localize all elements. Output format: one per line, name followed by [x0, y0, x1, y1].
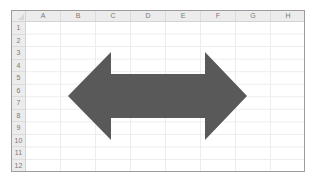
- row-header-7[interactable]: 7: [12, 97, 25, 110]
- row-header-2[interactable]: 2: [12, 35, 25, 48]
- row-header-11[interactable]: 11: [12, 147, 25, 160]
- row-header-5[interactable]: 5: [12, 72, 25, 85]
- column-headers: A B C D E F G H: [26, 11, 304, 22]
- row-headers: 1 2 3 4 5 6 7 8 9 10 11 12: [12, 22, 26, 171]
- column-header-c[interactable]: C: [96, 11, 131, 21]
- row-header-3[interactable]: 3: [12, 47, 25, 60]
- select-all-button[interactable]: [12, 11, 26, 22]
- column-header-a[interactable]: A: [26, 11, 61, 21]
- row-header-9[interactable]: 9: [12, 122, 25, 135]
- row-header-1[interactable]: 1: [12, 22, 25, 35]
- column-header-b[interactable]: B: [61, 11, 96, 21]
- row-header-10[interactable]: 10: [12, 135, 25, 148]
- column-header-h[interactable]: H: [271, 11, 305, 21]
- select-all-triangle-icon: [18, 14, 24, 20]
- column-header-f[interactable]: F: [201, 11, 236, 21]
- column-header-d[interactable]: D: [131, 11, 166, 21]
- row-header-8[interactable]: 8: [12, 110, 25, 123]
- column-header-e[interactable]: E: [166, 11, 201, 21]
- row-header-6[interactable]: 6: [12, 85, 25, 98]
- column-header-g[interactable]: G: [236, 11, 271, 21]
- row-header-4[interactable]: 4: [12, 60, 25, 73]
- row-header-12[interactable]: 12: [12, 160, 25, 172]
